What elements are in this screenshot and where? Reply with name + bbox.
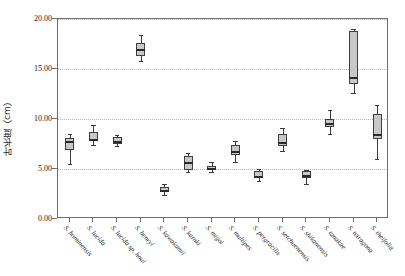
x-tick-mark (234, 218, 235, 222)
lower-cap (233, 162, 238, 163)
lower-cap (68, 164, 73, 165)
upper-whisker (330, 110, 331, 119)
upper-whisker (93, 125, 94, 132)
lower-cap (280, 151, 285, 152)
lower-cap (162, 195, 167, 196)
median-line (207, 168, 216, 170)
x-tick-label: S. tanakae (322, 224, 347, 251)
upper-cap (209, 162, 214, 163)
lower-cap (375, 159, 380, 160)
upper-cap (280, 128, 285, 129)
x-tick-mark (187, 218, 188, 222)
lower-whisker (235, 155, 236, 162)
median-line (160, 190, 169, 192)
x-tick-mark (258, 218, 259, 222)
upper-cap (139, 35, 144, 36)
y-tick-label: 20.00 (18, 14, 52, 23)
box-plot-figure: 叶长度（cm） 0.005.0010.0015.0020.00 S. homin… (0, 0, 405, 276)
lower-cap (304, 184, 309, 185)
median-line (349, 77, 358, 79)
median-line (254, 176, 263, 178)
iqr-box (278, 134, 287, 146)
median-line (325, 123, 334, 125)
upper-cap (375, 105, 380, 106)
plot-area (57, 18, 388, 218)
median-line (89, 139, 98, 141)
x-tick-mark (329, 218, 330, 222)
x-tick-mark (305, 218, 306, 222)
median-line (278, 142, 287, 144)
median-line (184, 162, 193, 164)
x-tick-label: S. migoi (204, 224, 225, 246)
upper-cap (186, 153, 191, 154)
median-line (65, 141, 74, 143)
x-tick-mark (282, 218, 283, 222)
lower-cap (209, 172, 214, 173)
x-tick-mark (69, 218, 70, 222)
upper-cap (257, 169, 262, 170)
x-tick-mark (140, 218, 141, 222)
median-line (231, 151, 240, 153)
iqr-box (231, 145, 240, 155)
upper-cap (328, 110, 333, 111)
y-tick-label: 5.00 (18, 164, 52, 173)
x-tick-mark (376, 218, 377, 222)
gridline-15 (58, 69, 387, 70)
upper-cap (68, 134, 73, 135)
gridline-20 (58, 19, 387, 20)
y-tick-label: 15.00 (18, 64, 52, 73)
x-tick-mark (353, 218, 354, 222)
lower-whisker (330, 127, 331, 134)
x-tick-mark (116, 218, 117, 222)
gridline-10 (58, 119, 387, 120)
lower-cap (115, 146, 120, 147)
lower-cap (328, 134, 333, 135)
x-tick-label: S. multipes (227, 224, 254, 252)
lower-cap (351, 93, 356, 94)
y-tick-label: 0.00 (18, 214, 52, 223)
lower-cap (139, 61, 144, 62)
x-tick-label: S. henryi (133, 224, 156, 248)
x-tick-label: S. kuroki (180, 224, 202, 248)
median-line (373, 134, 382, 136)
y-tick-label: 10.00 (18, 114, 52, 123)
lower-cap (91, 145, 96, 146)
upper-whisker (141, 35, 142, 43)
lower-cap (186, 172, 191, 173)
upper-cap (162, 184, 167, 185)
lower-whisker (354, 84, 355, 93)
x-tick-mark (163, 218, 164, 222)
lower-whisker (377, 139, 378, 159)
upper-whisker (377, 105, 378, 114)
upper-cap (351, 29, 356, 30)
lower-cap (257, 181, 262, 182)
x-tick-label: S. lucida (86, 224, 108, 248)
iqr-box (65, 138, 74, 150)
y-axis-ticks: 0.005.0010.0015.0020.00 (0, 0, 52, 276)
x-tick-mark (211, 218, 212, 222)
median-line (136, 49, 145, 51)
median-line (302, 175, 311, 177)
gridline-5 (58, 169, 387, 170)
x-tick-mark (92, 218, 93, 222)
median-line (113, 141, 122, 143)
upper-cap (91, 125, 96, 126)
upper-cap (233, 141, 238, 142)
upper-cap (115, 135, 120, 136)
lower-whisker (70, 150, 71, 164)
y-tick-mark (52, 218, 57, 219)
